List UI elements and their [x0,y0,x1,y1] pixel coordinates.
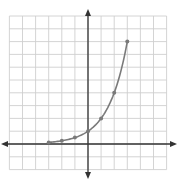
coordinate-axes [1,9,177,179]
data-point [99,116,103,120]
arrow-right-icon [170,141,177,147]
data-point [86,129,90,133]
data-point [112,91,116,95]
arrow-left-icon [1,141,8,147]
data-point [47,140,51,144]
arrow-up-icon [85,9,91,16]
exponential-graph [0,0,180,184]
data-point [60,139,64,143]
data-point [125,40,129,44]
arrow-down-icon [85,172,91,179]
data-point [73,136,77,140]
